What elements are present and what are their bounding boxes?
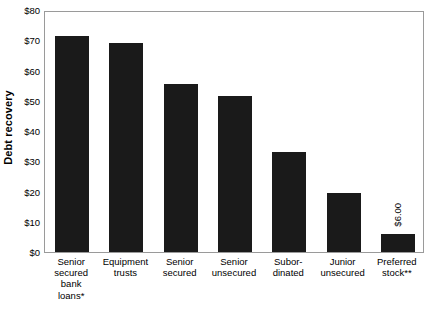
y-axis-tick-label: $60 [24,67,40,77]
y-axis-tick-label: $30 [24,158,40,168]
x-axis-tick-label: Senior secured bank loans* [44,256,98,301]
x-axis-tick-label: Subor- dinated [261,256,315,278]
bar[interactable] [381,234,415,252]
plot-area: $6.00 [44,11,424,253]
x-axis-tick-label: Preferred stock** [370,256,424,278]
bar[interactable] [109,43,143,252]
y-axis-tick-label: $80 [24,6,40,16]
x-axis-tick-labels: Senior secured bank loans*Equipment trus… [44,256,424,316]
bar-slot [154,12,208,252]
x-axis-tick-label: Junior unsecured [315,256,369,278]
y-axis-tick-label: $10 [24,218,40,228]
bar[interactable] [164,84,198,252]
bar[interactable] [327,193,361,252]
y-axis-tick-label: $0 [29,248,40,258]
y-axis-tick-label: $20 [24,188,40,198]
bar-slot [262,12,316,252]
bar-slot [45,12,99,252]
bar-slot [316,12,370,252]
y-axis-tick-label: $70 [24,37,40,47]
bar-slot: $6.00 [371,12,425,252]
x-axis-tick-label: Senior secured [153,256,207,278]
bar-slot [208,12,262,252]
y-axis-tick-label: $50 [24,97,40,107]
y-axis-tick-label: $40 [24,127,40,137]
bar-slot [99,12,153,252]
y-axis-tick-labels: $0$10$20$30$40$50$60$70$80 [16,0,42,258]
bar-chart-figure: Debt recovery $0$10$20$30$40$50$60$70$80… [0,0,428,316]
y-axis-title-text: Debt recovery [3,90,14,165]
x-axis-tick-label: Equipment trusts [98,256,152,278]
bar[interactable] [272,152,306,252]
bar[interactable] [55,36,89,252]
bar-value-label: $6.00 [393,203,403,227]
x-axis-tick-label: Senior unsecured [207,256,261,278]
bar[interactable] [218,96,252,252]
y-axis-title: Debt recovery [0,0,16,255]
bars-layer: $6.00 [45,12,423,252]
